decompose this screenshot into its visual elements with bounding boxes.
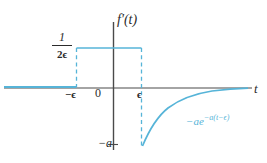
fraction-denominator: 2ϵ — [49, 47, 75, 61]
y-tick-label-pulse-height: 1 2ϵ — [49, 31, 75, 61]
derivative-plot-figure: f′(t) t 1 2ϵ −ϵ 0 ϵ −a −ae−a(t−ϵ) — [0, 0, 267, 163]
fraction-numerator: 1 — [49, 31, 75, 44]
x-tick-label-neg-epsilon: −ϵ — [65, 89, 76, 100]
fraction-bar — [52, 45, 72, 46]
x-tick-label-pos-epsilon: ϵ — [137, 89, 142, 100]
x-axis-label: t — [254, 82, 258, 95]
equation-exponent: −a(t−ϵ) — [204, 113, 230, 122]
equation-base: −ae — [186, 115, 204, 127]
y-axis-label: f′(t) — [117, 13, 137, 27]
curve-equation-annotation: −ae−a(t−ϵ) — [186, 113, 229, 127]
x-tick-label-origin: 0 — [95, 87, 101, 99]
y-tick-label-neg-a: −a — [98, 137, 112, 149]
